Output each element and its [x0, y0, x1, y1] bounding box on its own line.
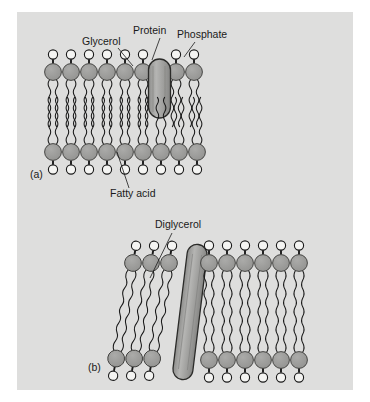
- lipid: [81, 97, 98, 174]
- lipid: [63, 97, 80, 174]
- figure-root: Glycerol Protein Phosphate Fatty acid (a…: [0, 0, 370, 402]
- label-glycerol: Glycerol: [82, 35, 121, 47]
- label-protein: Protein: [133, 24, 166, 36]
- lipid: [117, 50, 134, 127]
- membrane-protein: [149, 59, 171, 118]
- panel-b: Diglycerol (b): [88, 218, 307, 382]
- lipid: [63, 50, 80, 127]
- panel-letter-a: (a): [30, 168, 43, 180]
- lipid: [45, 97, 62, 174]
- panel-b-right-lipids: [201, 241, 308, 382]
- membrane-diagram: Glycerol Protein Phosphate Fatty acid (a…: [0, 0, 370, 402]
- label-diglycerol: Diglycerol: [155, 218, 201, 230]
- lipid: [81, 50, 98, 127]
- lipid: [99, 50, 116, 127]
- label-phosphate: Phosphate: [177, 28, 227, 40]
- span-lipid: [291, 241, 308, 382]
- span-lipid: [237, 241, 254, 382]
- lipid: [45, 50, 62, 127]
- span-lipid: [273, 241, 290, 382]
- panel-letter-b: (b): [88, 361, 101, 373]
- lipid: [99, 97, 116, 174]
- panel-b-left-lipids: [104, 240, 181, 382]
- label-fatty-acid: Fatty acid: [110, 187, 156, 199]
- span-lipid: [219, 241, 236, 382]
- leader-protein: [152, 38, 160, 60]
- span-lipid: [255, 241, 272, 382]
- lipid: [117, 97, 134, 174]
- span-lipid: [201, 241, 218, 382]
- panel-a: Glycerol Protein Phosphate Fatty acid (a…: [30, 24, 227, 199]
